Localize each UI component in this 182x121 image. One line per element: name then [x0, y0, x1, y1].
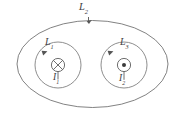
left-loop-label-base: L — [45, 36, 51, 47]
left-loop-label-sub: 1 — [51, 43, 54, 50]
right-current-label: I2 — [119, 74, 125, 86]
physics-figure: L2 L1 L3 I1 I2 — [0, 0, 182, 121]
right-loop-label-base: L — [120, 36, 126, 47]
outer-loop-label: L2 — [79, 2, 88, 15]
right-current-label-sub: 2 — [122, 80, 125, 86]
right-loop-label: L3 — [120, 37, 129, 49]
left-current-label-sub: 1 — [56, 79, 59, 85]
left-loop-direction-marker — [42, 51, 48, 56]
outer-loop-label-sub: 2 — [85, 8, 88, 15]
figure-canvas — [0, 0, 182, 121]
right-loop-label-sub: 3 — [126, 43, 129, 50]
right-loop-direction-marker — [108, 51, 114, 56]
left-loop-label: L1 — [45, 37, 54, 49]
left-current-label: I1 — [53, 73, 59, 85]
current-into-page-symbol — [51, 58, 64, 71]
outer-loop-label-base: L — [79, 1, 85, 12]
outer-loop-ellipse — [17, 21, 168, 108]
current-out-of-page-symbol — [117, 58, 130, 71]
